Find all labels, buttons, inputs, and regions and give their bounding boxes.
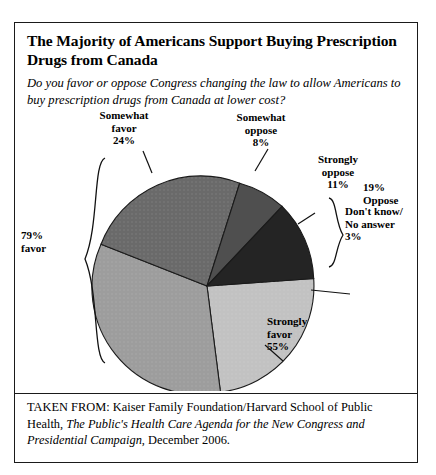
leader-somewhat-favor [143,151,152,173]
chart-question: Do you favor or oppose Congress changing… [27,75,403,108]
leader-somewhat-oppose [255,149,268,171]
source-suffix: , December 2006. [142,433,230,447]
pie-chart-svg [15,105,417,391]
label-oppose-total: 19% Oppose [363,181,419,206]
leader-strongly-oppose [298,213,315,224]
label-strongly-oppose: Strongly oppose 11% [305,153,371,191]
label-somewhat-favor: Somewhat favor 24% [78,109,170,147]
figure-panel: The Majority of Americans Support Buying… [14,22,418,463]
pie-chart-area: Somewhat favor 24% Somewhat oppose 8% St… [15,105,417,391]
label-favor-total: 79% favor [21,229,69,254]
label-strongly-favor: Strongly favor 55% [267,315,347,353]
label-somewhat-oppose: Somewhat oppose 8% [218,111,304,149]
source-attribution: TAKEN FROM: Kaiser Family Foundation/Har… [27,399,407,449]
source-divider [15,393,417,394]
leader-dont-know [311,290,350,294]
label-dont-know: Don't know/ No answer 3% [345,205,419,243]
bracket-oppose [329,198,343,267]
chart-title: The Majority of Americans Support Buying… [27,31,405,69]
